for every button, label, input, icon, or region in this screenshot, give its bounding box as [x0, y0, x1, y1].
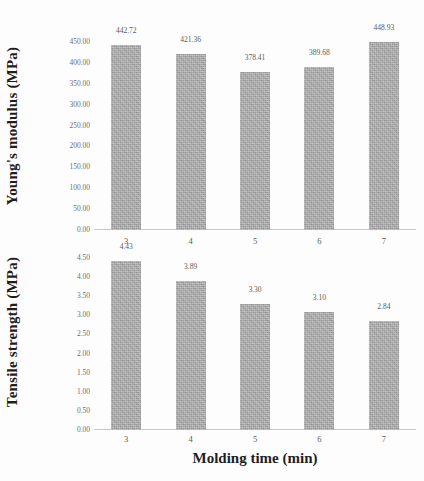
bar-cell: 4.43	[94, 258, 158, 430]
plot-area-youngs-modulus: 442.72421.36378.41389.68448.93	[94, 42, 416, 230]
bar	[240, 304, 270, 430]
bar	[369, 42, 399, 230]
bar-cell: 378.41	[223, 42, 287, 230]
y-tick-label: 0.00	[77, 426, 90, 434]
bar	[111, 261, 141, 430]
y-tick-label: 50.00	[73, 205, 90, 213]
bar-cell: 448.93	[352, 42, 416, 230]
bar	[304, 67, 334, 230]
bar	[369, 321, 399, 430]
bar-series-youngs-modulus: 442.72421.36378.41389.68448.93	[94, 42, 416, 230]
bar-value-label: 378.41	[245, 53, 266, 62]
bar-cell: 442.72	[94, 42, 158, 230]
bar	[176, 281, 206, 430]
y-tick-label: 3.00	[77, 311, 90, 319]
y-tick-label: 4.00	[77, 273, 90, 281]
y-tick-label: 3.50	[77, 292, 90, 300]
bar-cell: 3.30	[223, 258, 287, 430]
bar-value-label: 389.68	[309, 48, 330, 57]
bar-value-label: 448.93	[374, 23, 395, 32]
y-tick-label: 2.00	[77, 350, 90, 358]
y-tick-label: 2.50	[77, 330, 90, 338]
y-axis-ticks-youngs-modulus: 450.00400.00350.00300.00250.00200.00150.…	[40, 42, 90, 230]
bar-value-label: 421.36	[180, 35, 201, 44]
y-tick-label: 250.00	[69, 122, 90, 130]
x-tick-label: 6	[287, 434, 351, 444]
y-tick-label: 400.00	[69, 59, 90, 67]
bar-cell: 2.84	[352, 258, 416, 430]
bar-cell: 389.68	[287, 42, 351, 230]
bar-cell: 3.10	[287, 258, 351, 430]
y-tick-label: 0.00	[77, 226, 90, 234]
x-tick-label: 7	[352, 434, 416, 444]
bar-cell: 421.36	[158, 42, 222, 230]
y-axis-ticks-tensile-strength: 4.504.003.503.002.502.001.501.000.500.00	[40, 258, 90, 430]
x-axis-title: Molding time (min)	[94, 450, 416, 467]
bar-value-label: 2.84	[377, 302, 390, 311]
bar-series-tensile-strength: 4.433.893.303.102.84	[94, 258, 416, 430]
y-tick-label: 450.00	[69, 38, 90, 46]
bar-value-label: 4.43	[120, 242, 133, 251]
y-tick-label: 4.50	[77, 254, 90, 262]
panel-tensile-strength: Tensile strength (MPa) 4.504.003.503.002…	[0, 244, 424, 454]
y-tick-label: 1.00	[77, 388, 90, 396]
y-tick-label: 100.00	[69, 184, 90, 192]
bar	[176, 54, 206, 230]
x-tick-label: 3	[94, 434, 158, 444]
bar-cell: 3.89	[158, 258, 222, 430]
bar	[304, 312, 334, 430]
y-axis-title-youngs-modulus: Young's modulus (MPa)	[4, 16, 21, 236]
x-tick-label: 5	[223, 434, 287, 444]
y-tick-label: 200.00	[69, 142, 90, 150]
y-tick-label: 1.50	[77, 369, 90, 377]
plot-area-tensile-strength: 4.433.893.303.102.84	[94, 258, 416, 430]
y-tick-label: 150.00	[69, 163, 90, 171]
panel-youngs-modulus: Young's modulus (MPa) 450.00400.00350.00…	[0, 8, 424, 244]
x-tick-label: 4	[158, 434, 222, 444]
y-tick-label: 0.50	[77, 407, 90, 415]
bar	[240, 72, 270, 230]
x-axis-ticks-tensile-strength: 34567	[94, 434, 416, 444]
bar-value-label: 442.72	[116, 26, 137, 35]
bar	[111, 45, 141, 230]
bar-value-label: 3.30	[248, 285, 261, 294]
y-tick-label: 300.00	[69, 101, 90, 109]
y-tick-label: 350.00	[69, 80, 90, 88]
bar-value-label: 3.10	[313, 293, 326, 302]
bar-value-label: 3.89	[184, 262, 197, 271]
figure-bar-charts: Young's modulus (MPa) 450.00400.00350.00…	[0, 0, 424, 481]
y-axis-title-tensile-strength: Tensile strength (MPa)	[4, 222, 21, 442]
